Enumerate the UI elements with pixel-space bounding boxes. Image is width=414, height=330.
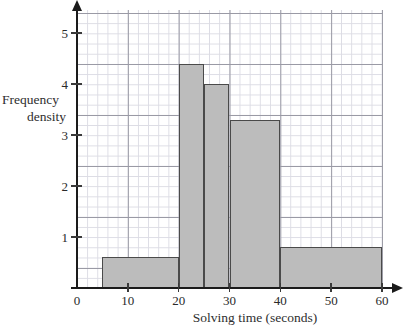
y-axis-arrow-icon — [72, 0, 82, 11]
y-axis-tick — [71, 185, 82, 187]
y-axis-tick-label: 1 — [46, 231, 68, 244]
y-axis-title-line1: Frequency — [2, 92, 70, 109]
x-axis-arrow-icon — [392, 283, 403, 293]
x-axis-tick-label: 40 — [260, 294, 300, 307]
x-axis-line — [71, 287, 396, 289]
histogram-bar — [102, 257, 178, 288]
histogram-bar — [204, 84, 229, 288]
plot-area — [77, 10, 383, 288]
x-axis-tick-label: 30 — [210, 294, 250, 307]
x-axis-tick-label: 10 — [108, 294, 148, 307]
x-axis-tick-label: 60 — [362, 294, 402, 307]
x-axis-tick — [178, 283, 180, 292]
y-axis-tick — [71, 32, 82, 34]
x-axis-tick-label: 0 — [57, 294, 97, 307]
y-axis-tick-label: 2 — [46, 180, 68, 193]
y-axis-title-line2: density — [2, 109, 70, 126]
histogram-bar — [280, 247, 382, 288]
x-axis-tick — [381, 283, 383, 292]
x-axis-tick — [229, 283, 231, 292]
y-axis-tick-label: 3 — [46, 129, 68, 142]
y-axis-tick — [71, 83, 82, 85]
x-axis-tick-label: 50 — [311, 294, 351, 307]
x-axis-tick — [280, 283, 282, 292]
x-axis-tick-label: 20 — [159, 294, 199, 307]
y-axis-tick-label: 5 — [46, 27, 68, 40]
y-axis-tick-label: 4 — [46, 78, 68, 91]
y-axis-line — [76, 8, 78, 289]
histogram-bar — [179, 64, 204, 288]
histogram-figure: 12345 0102030405060 Frequency density So… — [0, 0, 414, 330]
x-axis-tick — [127, 283, 129, 292]
x-axis-tick — [330, 283, 332, 292]
y-axis-title: Frequency density — [2, 92, 70, 126]
y-axis-tick — [71, 236, 82, 238]
y-axis-tick — [71, 134, 82, 136]
histogram-bar — [230, 120, 281, 288]
x-axis-title: Solving time (seconds) — [140, 310, 370, 326]
